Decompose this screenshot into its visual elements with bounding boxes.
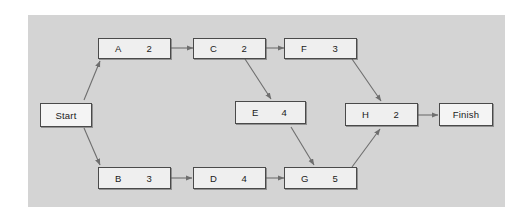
node-g-duration: 5 [333,173,338,184]
node-b-id: B [115,173,122,184]
node-h-id: H [362,109,369,120]
edge-start-to-a [84,61,100,100]
node-finish-label: Finish [453,109,480,120]
node-f[interactable]: F 3 [284,38,357,59]
edge-start-to-b [84,128,100,165]
node-d-id: D [210,173,217,184]
node-e[interactable]: E 4 [235,101,306,124]
node-a[interactable]: A 2 [98,38,171,59]
node-h[interactable]: H 2 [345,103,418,126]
node-d[interactable]: D 4 [193,167,266,189]
node-h-duration: 2 [394,109,399,120]
node-finish[interactable]: Finish [439,103,493,126]
node-a-duration: 2 [147,43,152,54]
node-start[interactable]: Start [40,103,92,127]
node-c-duration: 2 [242,43,247,54]
node-c[interactable]: C 2 [193,38,266,59]
node-b-duration: 3 [147,173,152,184]
node-f-duration: 3 [333,43,338,54]
node-e-duration: 4 [282,107,287,118]
node-b[interactable]: B 3 [98,167,171,189]
node-a-id: A [115,43,122,54]
edge-e-to-g [291,127,314,165]
node-e-id: E [252,107,259,118]
edge-f-to-h [352,59,381,101]
diagram-canvas: Start A 2 C 2 F 3 E 4 H 2 Finish B 3 D 4… [0,0,526,222]
edge-g-to-h [352,129,380,167]
edge-c-to-e [245,59,271,99]
node-start-label: Start [55,110,76,121]
node-f-id: F [301,43,307,54]
node-g-id: G [301,173,309,184]
node-g[interactable]: G 5 [284,167,357,189]
node-c-id: C [210,43,217,54]
node-d-duration: 4 [242,173,247,184]
